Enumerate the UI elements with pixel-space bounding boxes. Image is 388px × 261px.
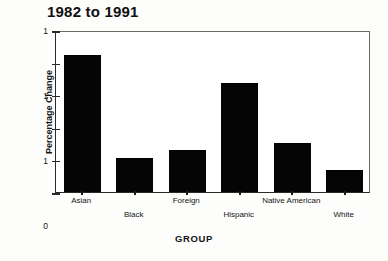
y-axis-tick-inner (56, 193, 60, 194)
y-axis-tick-label: 1 (43, 26, 48, 36)
x-axis-category-label: Foreign (173, 196, 200, 205)
x-axis-category-label: Native American (262, 196, 320, 205)
bar (221, 83, 258, 192)
bar (116, 158, 153, 192)
figure-canvas: 1982 to 1991 Percentage Change 111000 As… (0, 0, 388, 261)
y-axis-tick-inner (56, 96, 60, 97)
plot-area: 111000 (55, 31, 370, 193)
bar (169, 150, 206, 192)
x-axis-category-label: Asian (71, 196, 91, 205)
y-axis-tick-inner (56, 31, 60, 32)
x-axis-tick (134, 191, 136, 195)
x-axis-category-label: White (334, 210, 354, 219)
y-axis-tick-inner (56, 129, 60, 130)
chart-title: 1982 to 1991 (47, 3, 139, 20)
bar (64, 55, 101, 192)
x-axis-title: GROUP (0, 233, 388, 244)
x-axis-tick (291, 191, 293, 195)
bar (274, 143, 311, 192)
x-axis-tick (186, 191, 188, 195)
bar (326, 170, 363, 192)
y-axis-tick-label: 1 (43, 91, 48, 101)
x-axis-category-label: Black (124, 210, 144, 219)
x-axis-tick (344, 191, 346, 195)
y-axis-tick-inner (56, 64, 60, 65)
y-axis-tick-label: 1 (43, 156, 48, 166)
y-axis-tick-inner (56, 161, 60, 162)
x-axis-category-label: Hispanic (223, 210, 254, 219)
x-axis-tick (239, 191, 241, 195)
y-axis-title: Percentage Change (44, 32, 54, 192)
x-axis-tick (81, 191, 83, 195)
y-axis-tick-label: 0 (43, 221, 48, 231)
